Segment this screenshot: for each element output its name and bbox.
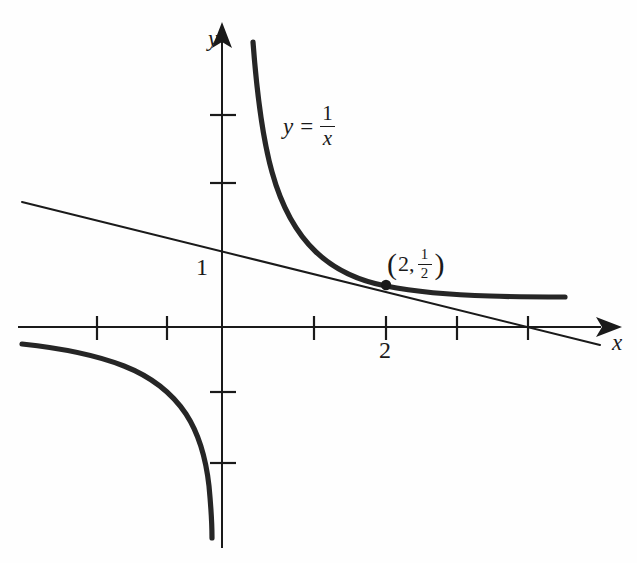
graph-canvas bbox=[0, 0, 637, 563]
axes-group bbox=[18, 22, 622, 548]
hyperbola-branch-third-quadrant bbox=[22, 344, 212, 538]
tangent-point-label: ( 2, 1 2 ) bbox=[387, 247, 445, 281]
y-axis-label: y bbox=[208, 27, 218, 50]
function-graph-figure: y x 1 2 y = 1 x ( 2, 1 2 ) bbox=[0, 0, 637, 563]
equation-denominator: x bbox=[321, 128, 334, 149]
equation-equals-sign: = bbox=[300, 115, 313, 138]
tick-marks-group bbox=[97, 115, 528, 463]
equation-label: y = 1 x bbox=[283, 103, 335, 149]
x-tick-label-2: 2 bbox=[379, 338, 391, 362]
tangent-line bbox=[22, 202, 600, 345]
point-x-value: 2, bbox=[398, 253, 415, 275]
tangent-point-marker bbox=[381, 280, 391, 290]
x-axis-label: x bbox=[612, 331, 622, 354]
equation-lhs: y bbox=[283, 115, 293, 138]
point-open-paren: ( bbox=[387, 252, 397, 277]
point-y-fraction: 1 2 bbox=[418, 247, 432, 281]
point-numerator: 1 bbox=[419, 247, 431, 262]
point-denominator: 2 bbox=[419, 266, 431, 281]
equation-numerator: 1 bbox=[320, 103, 335, 124]
point-close-paren: ) bbox=[435, 252, 445, 277]
y-tick-label-1: 1 bbox=[196, 255, 208, 279]
equation-fraction: 1 x bbox=[320, 103, 335, 149]
